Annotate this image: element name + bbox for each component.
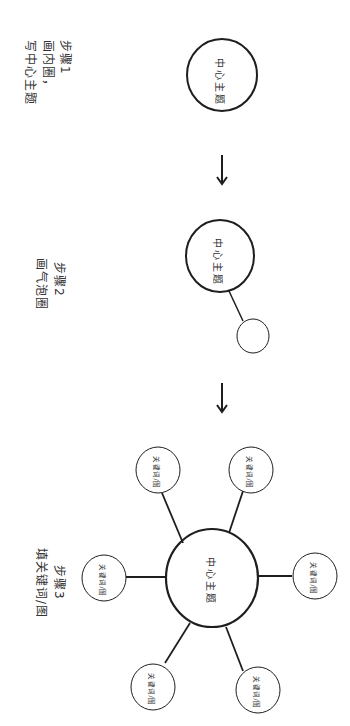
satellite-label: 关键词/图 xyxy=(152,456,162,489)
step2-connector xyxy=(229,291,243,321)
mind-map-diagram xyxy=(0,0,350,726)
step3-center-label: 中心主题 xyxy=(204,557,219,605)
satellite-label: 关键词/图 xyxy=(309,562,319,595)
step1-description-line2: 写中心主题 xyxy=(22,40,37,105)
step1-center-label: 中心主题 xyxy=(213,58,228,106)
arrow-down-icon xyxy=(217,155,227,184)
step2-center-label: 中心主题 xyxy=(211,238,226,286)
satellite-label: 关键词/图 xyxy=(252,676,262,709)
step1-title: 步骤1 xyxy=(57,40,72,75)
satellite-label: 关键词/图 xyxy=(147,673,157,706)
step2-title: 步骤2 xyxy=(51,262,66,297)
step3-description: 填关键词/图 xyxy=(33,548,48,618)
step2-description: 画气泡圈 xyxy=(33,258,48,310)
step2-bubble-circle xyxy=(237,319,269,353)
satellite-label: 关键词/图 xyxy=(245,456,255,489)
step1-description-line1: 画内圈， xyxy=(40,40,55,92)
satellite-label: 关键词/图 xyxy=(98,564,108,597)
arrow-down-icon xyxy=(217,383,227,412)
step3-title: 步骤3 xyxy=(51,565,66,600)
